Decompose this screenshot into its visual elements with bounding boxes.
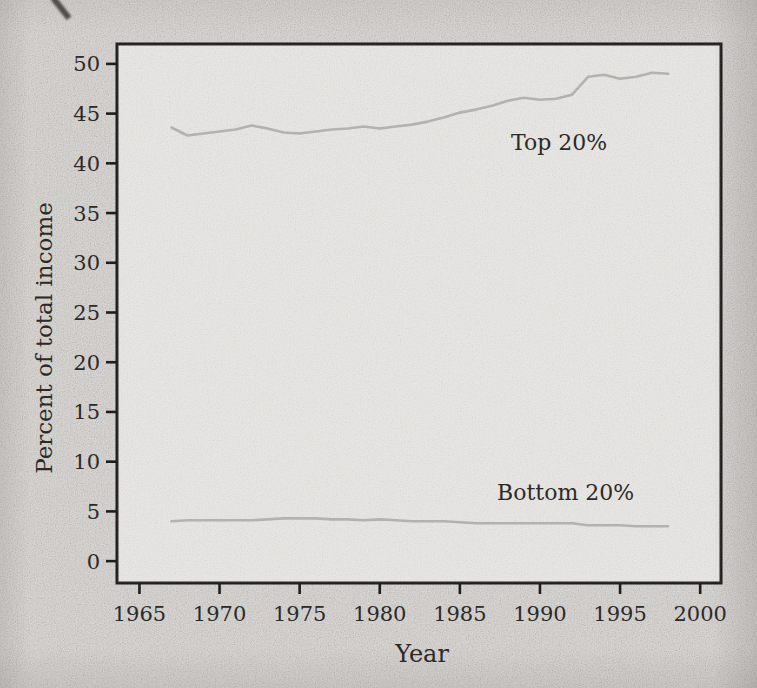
scanned-figure: 0510152025303540455019651970197519801985… — [0, 0, 757, 688]
x-tick-label-2000: 2000 — [673, 602, 726, 626]
x-tick-label-1990: 1990 — [513, 602, 566, 626]
y-tick-label-15: 15 — [73, 400, 100, 424]
x-tick-label-1975: 1975 — [273, 602, 326, 626]
series-label-bottom-20percent: Bottom 20% — [497, 480, 634, 505]
x-tick-label-1995: 1995 — [593, 602, 646, 626]
y-tick-label-35: 35 — [73, 202, 100, 226]
x-tick-label-1965: 1965 — [113, 602, 166, 626]
x-tick-label-1970: 1970 — [193, 602, 246, 626]
y-tick-label-50: 50 — [73, 52, 100, 76]
y-tick-label-30: 30 — [73, 251, 100, 275]
y-tick-label-45: 45 — [73, 102, 100, 126]
x-tick-label-1980: 1980 — [353, 602, 406, 626]
y-tick-label-20: 20 — [73, 351, 100, 375]
chart-canvas: 0510152025303540455019651970197519801985… — [0, 0, 757, 688]
y-tick-label-25: 25 — [73, 301, 100, 325]
y-tick-label-5: 5 — [87, 500, 100, 524]
y-tick-label-0: 0 — [87, 550, 100, 574]
x-tick-label-1985: 1985 — [433, 602, 486, 626]
series-label-top-20percent: Top 20% — [511, 130, 607, 155]
y-tick-label-40: 40 — [73, 152, 100, 176]
y-tick-label-10: 10 — [73, 450, 100, 474]
plot-layer: 0510152025303540455019651970197519801985… — [73, 44, 727, 626]
